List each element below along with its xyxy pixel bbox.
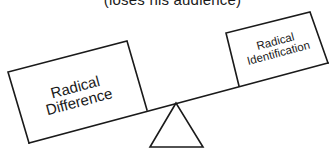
seesaw-diagram: (loses his audience) Radical Difference …	[0, 0, 335, 156]
diagram-caption: (loses his audience)	[0, 0, 335, 8]
fulcrum-triangle	[150, 103, 203, 147]
diagram-drawing	[0, 0, 335, 156]
